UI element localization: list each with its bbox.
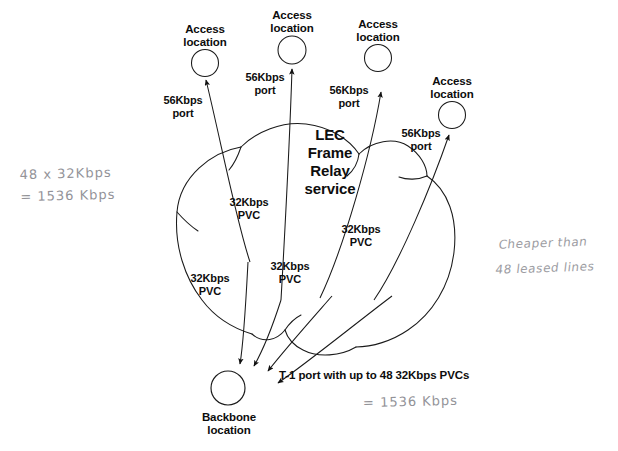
pvc-down-1 (240, 262, 248, 364)
annotation-trunk-total: = 1536 Kbps (363, 390, 459, 414)
pvc-label-1: 32Kbps PVC (220, 196, 278, 221)
pvc-label-2: 32Kbps PVC (332, 223, 390, 248)
access-location-label-3: Access location (345, 18, 411, 44)
access-node-circle-2 (278, 36, 306, 64)
pvc-down-2 (254, 300, 281, 366)
link-access-4 (374, 135, 449, 300)
port-label-2: 56Kbps port (236, 71, 294, 96)
backbone-node-circle (211, 371, 245, 405)
access-node-circle-1 (192, 50, 219, 77)
access-node-circle-4 (439, 102, 466, 129)
backbone-location-label: Backbone location (194, 411, 264, 437)
port-label-1: 56Kbps port (154, 94, 212, 119)
access-location-label-2: Access location (259, 9, 325, 35)
diagram-canvas: Access location Access location Access l… (0, 0, 618, 451)
diagram-drawing (0, 0, 618, 451)
port-label-4: 56Kbps port (392, 127, 450, 152)
t1-port-label: T-1 port with up to 48 32Kbps PVCs (279, 369, 469, 382)
access-location-label-4: Access location (419, 75, 485, 101)
link-access-1 (206, 80, 250, 262)
access-node-circle-3 (365, 45, 392, 72)
access-location-label-1: Access location (172, 23, 238, 49)
pvc-label-4: 32Kbps PVC (181, 272, 239, 297)
port-label-3: 56Kbps port (320, 84, 378, 109)
cloud-service-label: LEC Frame Relay service (287, 126, 373, 198)
pvc-label-3: 32Kbps PVC (261, 260, 319, 285)
pvc-down-3 (268, 296, 332, 371)
annotation-cost-note: Cheaper than 48 leased lines (494, 229, 599, 283)
annotation-bandwidth-calculation: 48 x 32Kbps = 1536 Kbps (19, 162, 115, 208)
